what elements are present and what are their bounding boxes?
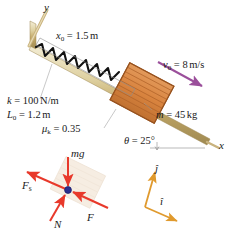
v0-value: 8 — [182, 59, 187, 70]
Fs-subscript: s — [29, 184, 32, 193]
L0-subscript: 0 — [13, 114, 17, 122]
friction-coefficient-label: μk = 0.35 — [42, 124, 80, 136]
unit-vector-label-i: î — [160, 196, 163, 207]
theta-unit: ° — [151, 135, 155, 146]
angle-label: θ = 25° — [124, 136, 155, 147]
m-unit: kg — [187, 109, 198, 120]
theta-symbol: θ — [124, 135, 129, 146]
v0-subscript: 0 — [168, 64, 172, 72]
x-axis — [207, 142, 219, 148]
unit-vector-j — [145, 172, 155, 207]
k-value: 100 — [23, 95, 39, 106]
x0-unit: m — [90, 30, 98, 41]
mu-subscript: k — [47, 128, 51, 136]
theta-equals: = — [132, 135, 138, 146]
theta-value: 25 — [140, 135, 151, 146]
x-axis-label: x — [219, 140, 224, 151]
L0-equals: = — [19, 109, 25, 120]
force-label-mg: mg — [71, 148, 84, 159]
x0-label: x0 = 1.5m — [56, 31, 98, 43]
velocity-label: v0 = 8m/s — [163, 60, 204, 72]
L0-unit: m — [42, 109, 50, 120]
v0-unit: m/s — [189, 59, 204, 70]
y-axis-label: y — [44, 2, 49, 13]
x0-subscript: 0 — [61, 35, 65, 43]
unit-vector-i — [145, 207, 177, 221]
m-symbol: m — [156, 109, 164, 120]
x0-value: 1.5 — [75, 30, 88, 41]
k-symbol: k — [7, 95, 12, 106]
force-label-Fs: Fs — [22, 180, 32, 193]
natural-length-label: L0 = 1.2m — [7, 110, 50, 122]
k-unit: N/m — [40, 95, 59, 106]
free-body-ghost-crate — [50, 157, 105, 209]
force-label-N: N — [54, 219, 61, 230]
m-equals: = — [166, 109, 172, 120]
m-value: 45 — [175, 109, 186, 120]
v0-equals: = — [174, 59, 180, 70]
unit-vector-label-j: ĵ — [155, 163, 158, 174]
mu-value: 0.35 — [62, 123, 80, 134]
spring-constant-label: k = 100N/m — [7, 96, 59, 107]
k-equals: = — [14, 95, 20, 106]
force-application-point — [65, 187, 72, 194]
Fs-symbol: F — [22, 179, 29, 191]
force-label-F: F — [87, 212, 94, 223]
L0-value: 1.2 — [28, 109, 41, 120]
angle-reference-line — [150, 142, 205, 150]
mass-label: m = 45kg — [156, 110, 197, 121]
x0-equals: = — [67, 30, 73, 41]
mu-equals: = — [53, 123, 59, 134]
